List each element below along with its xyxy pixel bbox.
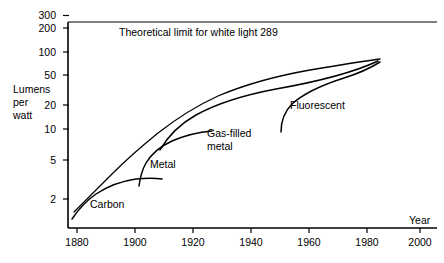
- theoretical-limit-annotation: Theoretical limit for white light 289: [119, 26, 278, 38]
- y-tick-label-300: 300: [22, 9, 56, 21]
- series-label-metal: Metal: [150, 158, 176, 170]
- series-label-fluorescent: Fluorescent: [290, 99, 345, 111]
- x-tick-label-2000: 2000: [400, 236, 440, 248]
- y-tick-label-100: 100: [22, 46, 56, 58]
- x-tick-label-1880: 1880: [57, 236, 97, 248]
- x-tick-label-1940: 1940: [231, 236, 271, 248]
- x-axis-title: Year: [409, 214, 430, 226]
- x-tick-label-1900: 1900: [115, 236, 155, 248]
- x-tick-label-1980: 1980: [347, 236, 387, 248]
- lumens-per-watt-chart: 300 200 100 50 20 10 5 2 Lumens per watt…: [0, 0, 444, 263]
- y-tick-label-10: 10: [22, 123, 56, 135]
- y-axis-title-line-2: per: [13, 96, 59, 109]
- y-axis-title-line-3: watt: [13, 109, 59, 122]
- series-label-carbon: Carbon: [90, 198, 124, 210]
- series-label-gas-filled-metal-line-1: Gas-filled: [207, 127, 251, 139]
- y-axis-title-line-1: Lumens: [13, 83, 59, 96]
- y-tick-label-2: 2: [22, 193, 56, 205]
- x-tick-label-1920: 1920: [173, 236, 213, 248]
- series-label-gas-filled-metal-line-2: metal: [207, 140, 233, 152]
- y-tick-label-5: 5: [22, 154, 56, 166]
- y-tick-label-50: 50: [22, 69, 56, 81]
- x-tick-label-1960: 1960: [289, 236, 329, 248]
- series-gas-filled-metal-curve: [160, 61, 378, 150]
- y-tick-label-200: 200: [22, 22, 56, 34]
